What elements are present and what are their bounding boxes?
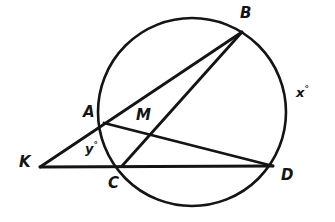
- point-label-K: K: [19, 155, 31, 170]
- angle-label-x: x°: [296, 85, 309, 99]
- point-label-B: B: [240, 6, 251, 21]
- angle-label-y: y°: [85, 141, 98, 155]
- point-label-C: C: [108, 176, 119, 191]
- degree-symbol-y: °: [93, 140, 98, 150]
- point-label-D: D: [281, 168, 293, 183]
- degree-symbol-x: °: [304, 84, 309, 94]
- point-label-A: A: [83, 105, 95, 120]
- segment-K-D: [40, 166, 273, 167]
- point-label-M: M: [136, 108, 151, 123]
- main-circle: [98, 18, 286, 206]
- geometry-canvas: [0, 0, 335, 222]
- geometry-diagram: A B C D K M x° y°: [0, 0, 335, 222]
